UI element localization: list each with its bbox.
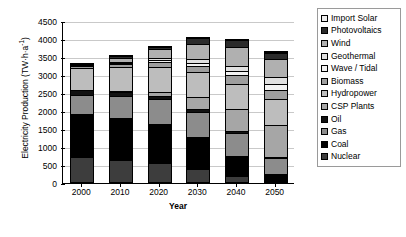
y-axis-tick (61, 148, 65, 149)
legend-item-nuclear: Nuclear (321, 151, 398, 164)
legend-swatch-icon (321, 141, 328, 148)
gridline (63, 76, 294, 77)
legend-swatch-icon (321, 27, 328, 34)
legend-swatch-icon (321, 116, 328, 123)
legend-item-csp-plants: CSP Plants (321, 100, 398, 113)
bar-segment-hydropower (149, 67, 171, 92)
legend-item-coal: Coal (321, 138, 398, 151)
bar-segment-coal (226, 156, 248, 176)
legend-label: Import Solar (331, 14, 377, 23)
y-axis-tick-label: 0 (23, 180, 57, 189)
bar-segment-wind (226, 47, 248, 66)
x-axis-tick (120, 184, 121, 187)
legend-label: CSP Plants (331, 102, 374, 111)
legend-swatch-icon (321, 40, 328, 47)
y-axis-tick-label: 500 (23, 162, 57, 171)
y-axis-tick-label: 3500 (23, 54, 57, 63)
bar-segment-coal (110, 118, 132, 159)
legend-swatch-icon (321, 65, 328, 72)
electricity-production-chart: Electricity Production (TW·h·a-1) 050010… (0, 0, 406, 237)
gridline (63, 130, 294, 131)
bar-segment-csp-plants (187, 97, 209, 109)
y-axis-tick (61, 58, 65, 59)
legend-label: Hydropower (331, 89, 377, 98)
legend-swatch-icon (321, 78, 328, 85)
legend-swatch-icon (321, 15, 328, 22)
legend-item-wave-tidal: Wave / Tidal (321, 62, 398, 75)
gridline (63, 22, 294, 23)
legend-swatch-icon (321, 103, 328, 110)
bar-segment-wind (187, 44, 209, 59)
y-axis-tick-label: 1500 (23, 126, 57, 135)
bar-2030 (186, 37, 210, 183)
legend-label: Photovoltaics (331, 26, 382, 35)
gridline (63, 58, 294, 59)
bar-segment-coal (187, 137, 209, 169)
y-axis-tick (61, 76, 65, 77)
bar-segment-csp-plants (226, 109, 248, 131)
legend-label: Gas (331, 127, 347, 136)
y-axis-tick (61, 130, 65, 131)
x-axis-tick (159, 184, 160, 187)
bar-segment-gas (187, 112, 209, 137)
legend-item-gas: Gas (321, 125, 398, 138)
bar-segment-gas (71, 95, 93, 114)
bar-segment-hydropower (110, 67, 132, 91)
bar-2000 (70, 63, 94, 183)
legend-label: Biomass (331, 77, 364, 86)
bar-segment-biomass (226, 75, 248, 83)
bar-2020 (148, 46, 172, 183)
legend-label: Coal (331, 140, 348, 149)
bar-segment-nuclear (110, 160, 132, 182)
legend-label: Geothermal (331, 52, 375, 61)
legend-swatch-icon (321, 153, 328, 160)
gridline (63, 94, 294, 95)
legend-label: Wave / Tidal (331, 64, 377, 73)
y-axis-tick (61, 112, 65, 113)
legend-item-oil: Oil (321, 113, 398, 126)
bar-segment-wind (265, 59, 287, 77)
x-axis-title: Year (62, 201, 294, 211)
bar-segment-hydropower (226, 84, 248, 110)
bar-segment-hydropower (187, 72, 209, 97)
bar-segment-gas (149, 99, 171, 124)
x-axis-tick (236, 184, 237, 187)
bar-segment-coal (149, 124, 171, 163)
x-axis-tick (81, 184, 82, 187)
bar-segment-gas (110, 96, 132, 118)
legend-item-import-solar: Import Solar (321, 12, 398, 25)
y-axis-tick-label: 4000 (23, 36, 57, 45)
bar-segment-nuclear (71, 157, 93, 182)
bar-segment-csp-plants (265, 125, 287, 157)
y-axis-tick (61, 184, 65, 185)
bar-segment-wind (149, 49, 171, 58)
bar-segment-hydropower (71, 68, 93, 90)
bar-segment-coal (71, 114, 93, 157)
legend-swatch-icon (321, 53, 328, 60)
y-axis-tick (61, 94, 65, 95)
legend-label: Oil (331, 115, 341, 124)
y-axis-tick-label: 3000 (23, 72, 57, 81)
bar-segment-nuclear (187, 169, 209, 182)
legend-item-photovoltaics: Photovoltaics (321, 25, 398, 38)
plot-area (62, 22, 294, 184)
y-axis-tick-label: 2000 (23, 108, 57, 117)
bar-segment-biomass (265, 90, 287, 99)
gridline (63, 148, 294, 149)
bar-segment-nuclear (226, 176, 248, 182)
bar-segment-nuclear (149, 163, 171, 182)
bar-segment-hydropower (265, 99, 287, 125)
bar-segment-gas (265, 158, 287, 173)
legend-item-wind: Wind (321, 37, 398, 50)
bar-2050 (264, 51, 288, 183)
legend-item-geothermal: Geothermal (321, 50, 398, 63)
legend-swatch-icon (321, 128, 328, 135)
y-axis-tick (61, 40, 65, 41)
x-axis-tick (197, 184, 198, 187)
y-axis-tick (61, 166, 65, 167)
y-axis-title-base: Electricity Production (TW·h·a (20, 46, 30, 159)
bar-segment-photovoltaics (226, 40, 248, 47)
bar-2040 (225, 39, 249, 183)
gridline (63, 112, 294, 113)
legend: Import SolarPhotovoltaicsWindGeothermalW… (317, 8, 401, 167)
